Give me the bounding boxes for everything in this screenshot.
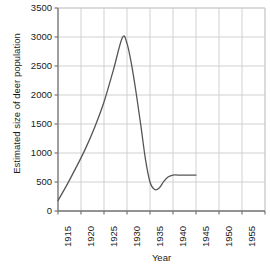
axis-lines xyxy=(58,8,265,211)
plot-area xyxy=(0,0,270,270)
tick-marks xyxy=(55,8,266,215)
grid-lines xyxy=(58,8,265,211)
deer-population-line-chart: Estimated size of deer population 050010… xyxy=(0,0,270,270)
